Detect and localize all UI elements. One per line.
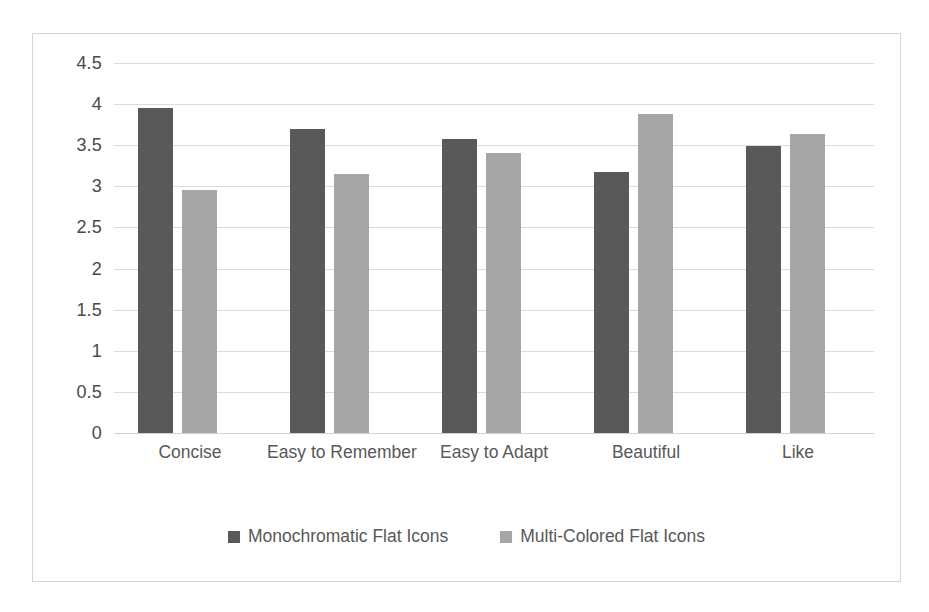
bar-group — [722, 63, 874, 433]
bar[interactable] — [746, 146, 781, 433]
y-axis-tick-label: 1 — [92, 340, 102, 361]
bar-group — [114, 63, 266, 433]
legend-label: Multi-Colored Flat Icons — [520, 526, 705, 547]
legend-swatch-icon — [500, 531, 512, 543]
y-axis-tick-label: 0.5 — [76, 381, 102, 402]
bar[interactable] — [290, 129, 325, 433]
y-axis-tick-label: 4 — [92, 94, 102, 115]
gridline — [114, 433, 874, 434]
bar[interactable] — [790, 134, 825, 433]
legend-label: Monochromatic Flat Icons — [248, 526, 448, 547]
plot-area: 4.543.532.521.510.50 — [114, 63, 874, 433]
bars-layer — [114, 63, 874, 433]
legend-item[interactable]: Monochromatic Flat Icons — [228, 526, 448, 547]
y-axis-tick-label: 2 — [92, 258, 102, 279]
y-axis-tick-label: 3.5 — [76, 135, 102, 156]
y-axis-tick-label: 2.5 — [76, 217, 102, 238]
x-axis-label: Easy to Adapt — [418, 441, 570, 465]
legend-item[interactable]: Multi-Colored Flat Icons — [500, 526, 705, 547]
chart-frame: 4.543.532.521.510.50 ConciseEasy to Reme… — [32, 33, 901, 582]
bar[interactable] — [594, 172, 629, 433]
y-axis-tick-label: 3 — [92, 176, 102, 197]
bar-group — [266, 63, 418, 433]
bar[interactable] — [442, 139, 477, 433]
legend-swatch-icon — [228, 531, 240, 543]
bar[interactable] — [486, 153, 521, 433]
x-axis-category-labels: ConciseEasy to RememberEasy to AdaptBeau… — [114, 441, 874, 501]
bar[interactable] — [138, 108, 173, 433]
bar[interactable] — [334, 174, 369, 433]
y-axis-tick-label: 1.5 — [76, 299, 102, 320]
x-axis-label: Concise — [114, 441, 266, 465]
chart-legend: Monochromatic Flat IconsMulti-Colored Fl… — [33, 526, 900, 547]
bar-group — [570, 63, 722, 433]
x-axis-label: Like — [722, 441, 874, 465]
x-axis-label: Easy to Remember — [266, 441, 418, 465]
bar[interactable] — [638, 114, 673, 433]
y-axis-tick-label: 0 — [92, 423, 102, 444]
y-axis-tick-label: 4.5 — [76, 53, 102, 74]
bar[interactable] — [182, 190, 217, 433]
x-axis-label: Beautiful — [570, 441, 722, 465]
bar-group — [418, 63, 570, 433]
